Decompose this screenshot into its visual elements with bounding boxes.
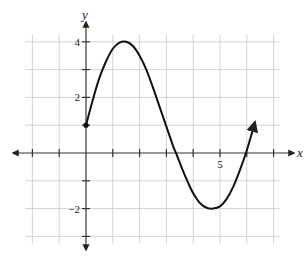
y-tick-label: −2 bbox=[68, 203, 80, 215]
y-tick-label: 4 bbox=[75, 36, 81, 48]
y-axis-label: y bbox=[80, 7, 88, 22]
start-point-dot bbox=[83, 123, 88, 128]
function-graph: 542−2 x y bbox=[0, 0, 308, 258]
x-axis-label: x bbox=[296, 145, 303, 160]
grid bbox=[25, 35, 279, 244]
y-tick-label: 2 bbox=[75, 91, 81, 103]
x-tick-label: 5 bbox=[217, 158, 223, 170]
